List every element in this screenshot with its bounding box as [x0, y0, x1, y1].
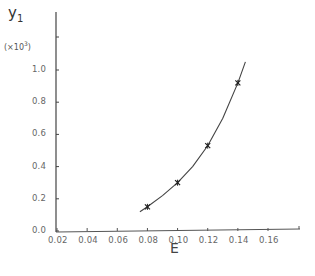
- y-tick-label: 0.0: [32, 225, 46, 235]
- y-axis-scale: (×103): [4, 40, 31, 52]
- x-tick-label: 0.04: [78, 235, 98, 245]
- data-point-marker: [145, 204, 150, 210]
- x-tick-label: 0.16: [259, 235, 279, 245]
- data-point-marker: [205, 143, 210, 149]
- chart: y1 (×103) E 0.020.040.060.080.100.120.14…: [0, 0, 315, 276]
- x-tick-label: 0.02: [48, 235, 68, 245]
- x-tick-label: 0.06: [108, 235, 128, 245]
- y-tick-label: 0.8: [32, 96, 46, 106]
- y-tick-label: 1.0: [32, 64, 46, 74]
- y-tick-label: 0.6: [32, 128, 46, 138]
- axes: [56, 12, 300, 232]
- x-tick-label: 0.14: [229, 235, 249, 245]
- data-point-marker: [175, 180, 180, 186]
- y-tick-label: 0.2: [32, 193, 46, 203]
- data-point-marker: [235, 80, 240, 86]
- x-tick-label: 0.08: [138, 235, 158, 245]
- x-tick-label: 0.10: [169, 235, 189, 245]
- y-tick-label: 0.4: [32, 161, 46, 171]
- y-axis-title: y1: [8, 4, 23, 24]
- data-series: [140, 62, 246, 212]
- x-tick-label: 0.12: [199, 235, 219, 245]
- fit-curve: [140, 62, 246, 212]
